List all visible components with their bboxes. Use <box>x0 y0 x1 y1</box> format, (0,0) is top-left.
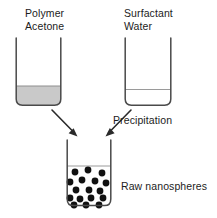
precipitation-label: Precipitation <box>113 114 172 127</box>
arrow-left-to-product <box>52 110 78 137</box>
right-beaker-label-line1: Surfactant <box>124 7 173 20</box>
left-beaker-label: Polymer Acetone <box>25 7 64 32</box>
left-beaker-label-line1: Polymer <box>25 7 64 20</box>
process-diagram: Polymer Acetone Surfactant Water Precipi… <box>0 0 217 218</box>
left-beaker-liquid <box>16 86 61 105</box>
left-beaker-label-line2: Acetone <box>25 20 64 33</box>
right-beaker <box>125 38 171 105</box>
right-beaker-label-line2: Water <box>124 20 173 33</box>
right-beaker-label: Surfactant Water <box>124 7 173 32</box>
left-beaker <box>16 38 61 105</box>
right-beaker-liquid <box>125 90 171 106</box>
product-beaker <box>67 140 111 208</box>
raw-nanospheres-label: Raw nanospheres <box>121 180 207 193</box>
